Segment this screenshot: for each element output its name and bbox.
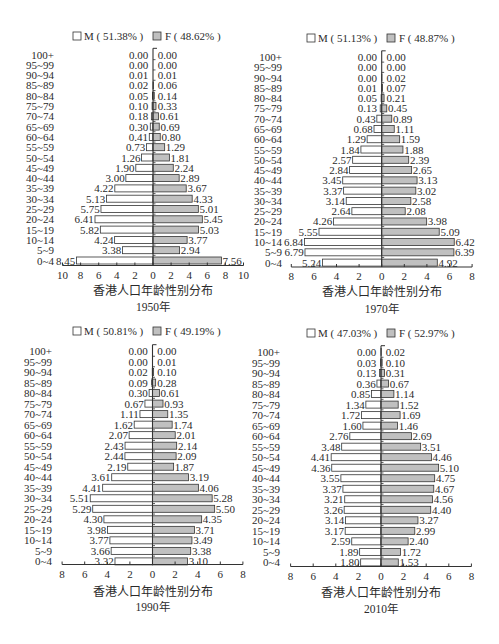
female-bar [381, 527, 415, 534]
female-bar [381, 475, 435, 482]
female-bar [153, 400, 164, 407]
legend-swatch-female-icon [153, 327, 161, 335]
male-bar [319, 228, 382, 235]
male-bar [331, 454, 381, 461]
male-bar [140, 411, 153, 418]
female-bar [153, 495, 213, 502]
female-bar [153, 236, 187, 243]
female-bar [153, 558, 188, 565]
x-tick-label: 6 [218, 568, 224, 580]
male-bar [108, 526, 153, 533]
age-group-row: 10~143.773.49 [24, 534, 213, 546]
pyramid-rows: 100+0.000.0095~990.000.0090~940.000.0285… [254, 51, 475, 269]
male-bar [125, 442, 152, 449]
age-group-label: 0~4 [265, 257, 282, 269]
female-bar [153, 123, 159, 130]
legend-label-female: F ( 52.97% ) [399, 327, 455, 340]
male-bar [343, 485, 381, 492]
male-bar [111, 547, 152, 554]
female-bar [382, 218, 427, 225]
legend: M ( 47.03% )F ( 52.97% ) [307, 327, 455, 340]
male-bar [104, 516, 153, 523]
legend-swatch-male-icon [307, 329, 315, 337]
pyramid-rows: 100+0.000.0095~990.000.0090~940.010.0185… [26, 49, 242, 267]
age-group-label: 0~4 [35, 555, 52, 567]
male-bar [352, 208, 382, 215]
female-bar [153, 484, 199, 491]
male-bar [95, 216, 153, 223]
male-bar [350, 167, 382, 174]
legend-swatch-female-icon [387, 329, 395, 337]
female-bar [382, 208, 406, 215]
x-tick-label: 4 [334, 270, 340, 282]
age-group-row: 5~93.663.38 [35, 545, 212, 557]
legend-label-male: M ( 51.13% ) [318, 32, 378, 45]
legend-label-female: F ( 49.19% ) [165, 325, 221, 338]
x-axis: 864202468 [289, 264, 476, 282]
female-bar [382, 249, 454, 256]
charts-canvas: M ( 51.38% )F ( 48.62% )100+0.000.0095~9… [0, 0, 499, 644]
male-bar [344, 187, 382, 194]
age-group-row: 20~246.415.45 [26, 213, 223, 225]
x-tick-label: 0 [378, 570, 384, 582]
legend: M ( 50.81% )F ( 49.19% ) [73, 325, 221, 338]
age-group-row: 55~593.483.51 [252, 441, 441, 453]
male-bar [346, 517, 381, 524]
male-value-label: 3.32 [95, 555, 114, 567]
female-bar [381, 496, 433, 503]
female-bar [153, 175, 179, 182]
x-tick-label: 8 [223, 269, 229, 281]
female-bar [381, 454, 431, 461]
male-bar [371, 391, 381, 398]
age-group-label: 0~4 [37, 255, 54, 267]
male-bar [101, 206, 153, 213]
male-bar [345, 496, 381, 503]
male-bar [128, 463, 153, 470]
x-tick-label: 6 [446, 570, 452, 582]
male-bar [353, 156, 382, 163]
female-bar [382, 105, 387, 112]
chart-title: 香港人口年龄性别分布 [93, 284, 213, 298]
pyramid-rows: 100+0.000.0095~990.000.0190~940.020.1085… [24, 345, 236, 567]
female-bar [381, 485, 434, 492]
x-tick-label: 8 [78, 269, 84, 281]
population-pyramid-panel: M ( 47.03% )F ( 52.97% )100+0.000.0295~9… [252, 327, 475, 615]
female-bar [153, 216, 202, 223]
x-tick-label: 4 [186, 269, 192, 281]
female-value-label: 2.94 [181, 244, 201, 256]
male-bar [352, 538, 381, 545]
female-bar [382, 125, 395, 132]
male-bar [134, 421, 152, 428]
female-bar [153, 390, 160, 397]
male-bar [103, 484, 153, 491]
x-tick-label: 2 [127, 568, 133, 580]
x-tick-label: 0 [379, 270, 385, 282]
age-group-row: 25~295.755.01 [26, 203, 219, 215]
legend-swatch-female-icon [387, 34, 395, 42]
male-bar [366, 401, 381, 408]
male-bar [332, 464, 381, 471]
male-bar [346, 197, 381, 204]
male-bar [126, 175, 153, 182]
male-bar [377, 380, 381, 387]
x-tick-label: 6 [82, 568, 88, 580]
female-bar [153, 144, 165, 151]
legend: M ( 51.13% )F ( 48.87% ) [307, 32, 455, 45]
male-bar [110, 537, 153, 544]
chart-year-caption: 1990年 [136, 600, 170, 613]
female-bar [381, 548, 400, 555]
male-bar [93, 505, 153, 512]
female-bar [382, 146, 403, 153]
female-bar [153, 411, 168, 418]
male-bar [129, 432, 152, 439]
chart-title: 香港人口年龄性别分布 [321, 586, 441, 600]
legend-swatch-male-icon [307, 34, 315, 42]
male-bar [334, 218, 382, 225]
legend-label-female: F ( 48.87% ) [399, 32, 455, 45]
female-bar [153, 463, 174, 470]
x-tick-label: 10 [238, 269, 250, 281]
age-group-row: 50~544.414.46 [252, 451, 452, 463]
age-group-row: 30~343.214.56 [252, 493, 453, 505]
x-tick-label: 4 [195, 568, 201, 580]
legend-label-male: M ( 47.03% ) [318, 327, 378, 340]
